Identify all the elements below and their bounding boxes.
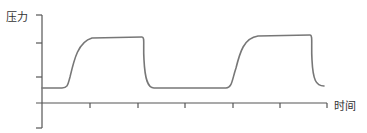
pressure-time-diagram [0,0,367,133]
pressure-curve [42,35,324,88]
y-axis-label: 压力 [6,8,28,24]
x-axis [36,103,327,108]
y-axis [36,15,42,128]
x-axis-label: 时间 [334,97,356,113]
